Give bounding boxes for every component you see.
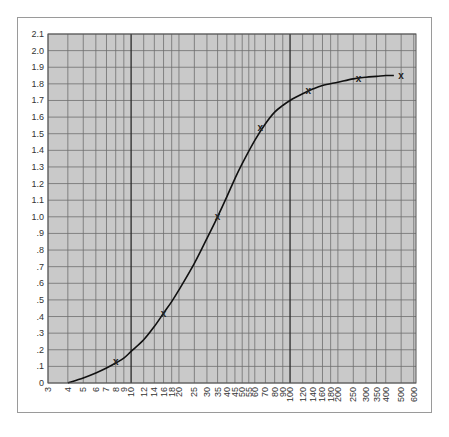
y-tick-label: .3 xyxy=(36,328,44,338)
line-chart: 0.1.2.3.4.5.6.7.8.91.01.11.21.31.41.51.6… xyxy=(0,0,449,437)
x-marker-icon: x xyxy=(356,73,362,84)
x-tick-label: 600 xyxy=(409,387,419,402)
y-tick-label: 1.4 xyxy=(31,145,44,155)
x-tick-label: 25 xyxy=(189,387,199,397)
x-tick-label: 12 xyxy=(139,387,149,397)
x-tick-label: 200 xyxy=(333,387,343,402)
y-tick-label: 1.2 xyxy=(31,179,44,189)
x-marker-icon: x xyxy=(161,308,167,319)
plot-area xyxy=(48,34,416,383)
y-tick-label: 0 xyxy=(39,378,44,388)
x-tick-label: 5 xyxy=(78,387,88,392)
y-tick-label: 1.5 xyxy=(31,129,44,139)
x-tick-label: 500 xyxy=(396,387,406,402)
y-tick-label: 1.7 xyxy=(31,95,44,105)
x-tick-label: 400 xyxy=(381,387,391,402)
y-tick-label: 1.1 xyxy=(31,195,44,205)
x-tick-label: 250 xyxy=(348,387,358,402)
x-tick-label: 100 xyxy=(285,387,295,402)
y-axis-tick-labels: 0.1.2.3.4.5.6.7.8.91.01.11.21.31.41.51.6… xyxy=(31,29,44,388)
x-tick-label: 30 xyxy=(202,387,212,397)
y-tick-label: .4 xyxy=(36,312,44,322)
y-tick-label: .8 xyxy=(36,245,44,255)
x-marker-icon: x xyxy=(215,211,221,222)
y-tick-label: 1.8 xyxy=(31,79,44,89)
x-tick-label: 3 xyxy=(43,387,53,392)
x-marker-icon: x xyxy=(258,122,264,133)
x-tick-label: 300 xyxy=(361,387,371,402)
x-axis-tick-labels: 3456789101214161820253035404550556070809… xyxy=(43,387,419,402)
x-tick-label: 60 xyxy=(250,387,260,397)
x-tick-label: 120 xyxy=(298,387,308,402)
y-tick-label: 2.0 xyxy=(31,46,44,56)
y-tick-label: 2.1 xyxy=(31,29,44,39)
x-marker-icon: x xyxy=(113,356,119,367)
x-tick-label: 6 xyxy=(91,387,101,392)
x-tick-label: 4 xyxy=(63,387,73,392)
y-tick-label: .2 xyxy=(36,345,44,355)
x-marker-icon: x xyxy=(305,85,311,96)
x-tick-label: 20 xyxy=(174,387,184,397)
y-tick-label: .6 xyxy=(36,278,44,288)
y-tick-label: 1.6 xyxy=(31,112,44,122)
y-tick-label: .9 xyxy=(36,228,44,238)
y-tick-label: 1.3 xyxy=(31,162,44,172)
x-tick-label: 10 xyxy=(126,387,136,397)
y-tick-label: 1.9 xyxy=(31,62,44,72)
y-tick-label: .1 xyxy=(36,361,44,371)
y-tick-label: 1.0 xyxy=(31,212,44,222)
y-tick-label: .5 xyxy=(36,295,44,305)
x-marker-icon: x xyxy=(398,70,404,81)
y-tick-label: .7 xyxy=(36,262,44,272)
